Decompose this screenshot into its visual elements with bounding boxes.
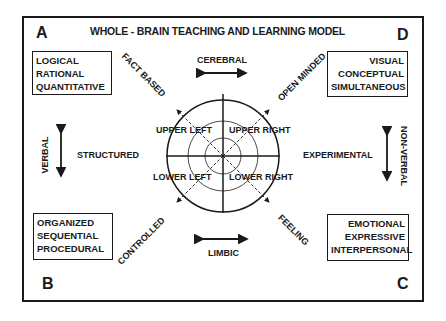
arrow-lower-right: [223, 156, 269, 202]
arrow-lower-left: [177, 156, 223, 202]
brain-model-graphic: [0, 0, 446, 321]
arrow-upper-left: [177, 110, 223, 156]
arrow-upper-right: [223, 110, 269, 156]
